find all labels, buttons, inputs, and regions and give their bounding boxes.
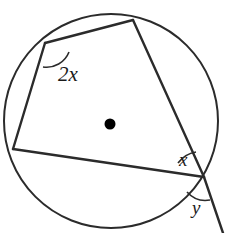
chord-right-edge: [133, 20, 204, 177]
chord-top-edge: [45, 20, 133, 43]
angle-label-y: y: [192, 198, 200, 217]
angle-label-x: x: [179, 150, 187, 169]
chord-left-edge: [13, 43, 45, 149]
secant-extension-line: [204, 177, 223, 233]
chord-bottom-edge: [13, 149, 204, 177]
circle-center-dot: [105, 119, 116, 130]
angle-label-2x: 2x: [58, 64, 78, 85]
geometry-figure: 2x x y: [0, 0, 227, 233]
